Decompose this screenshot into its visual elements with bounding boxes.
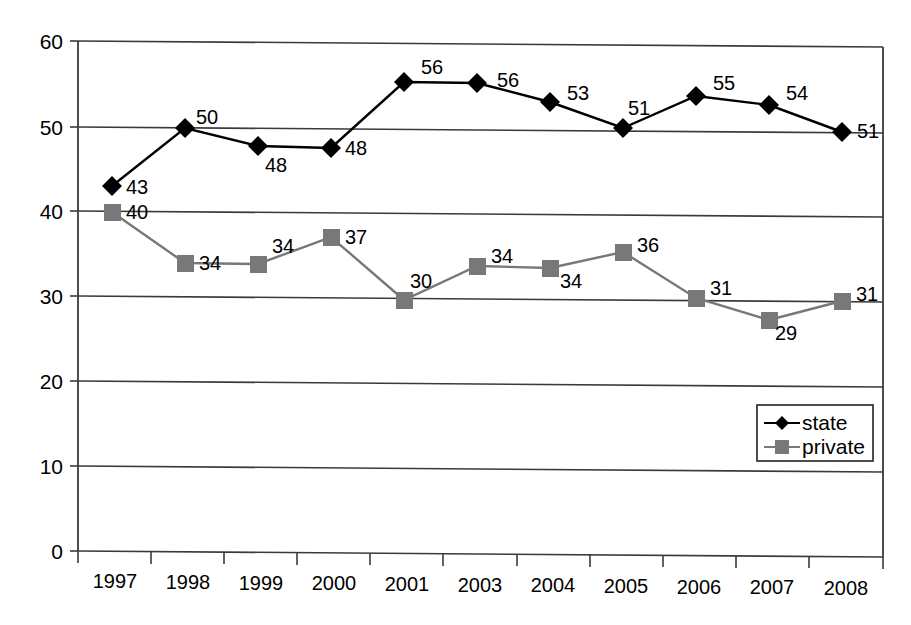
data-label: 56 [497, 69, 519, 91]
gridline-10 [78, 466, 883, 472]
series-private-marker [542, 260, 559, 277]
data-label: 31 [856, 283, 878, 305]
x-tick-label-2008: 2008 [824, 577, 869, 599]
x-tick-label-2003: 2003 [458, 574, 503, 596]
data-label: 48 [265, 154, 287, 176]
series-state-marker [686, 86, 706, 106]
x-tick-label-1999: 1999 [239, 572, 284, 594]
gridline-40 [78, 211, 883, 217]
series-state-marker [467, 73, 487, 93]
data-label: 31 [710, 277, 732, 299]
data-label: 37 [345, 226, 367, 248]
legend-label-private: private [802, 435, 865, 458]
x-tick-label-2000: 2000 [312, 572, 357, 594]
x-tick-label-2005: 2005 [604, 575, 649, 597]
series-private-marker [396, 292, 413, 309]
data-label: 34 [199, 252, 221, 274]
chart-canvas: 60 50 40 30 20 10 0 1997 1998 [0, 0, 911, 625]
y-tick-label-50: 50 [40, 116, 63, 139]
data-label: 50 [196, 106, 218, 128]
data-label: 34 [272, 235, 294, 257]
series-private-marker [615, 244, 632, 261]
data-label: 54 [786, 82, 808, 104]
chart-legend[interactable]: state private [757, 405, 873, 461]
series-private-marker [834, 293, 851, 310]
y-tick-label-60: 60 [40, 30, 63, 53]
data-label: 30 [410, 270, 432, 292]
data-label: 36 [637, 234, 659, 256]
y-tick-label-40: 40 [40, 200, 63, 223]
gridline-60 [78, 41, 883, 47]
data-label: 56 [421, 56, 443, 78]
y-tick-label-30: 30 [40, 285, 63, 308]
data-label: 43 [126, 176, 148, 198]
line-chart: 60 50 40 30 20 10 0 1997 1998 [0, 0, 911, 625]
legend-label-state: state [802, 411, 848, 434]
series-private-marker [688, 290, 705, 307]
gridline-30 [78, 296, 883, 302]
data-label: 34 [560, 270, 582, 292]
y-axis-ticks [70, 41, 78, 551]
series-state-labels: 43 50 48 48 56 56 53 51 55 54 51 [126, 56, 879, 198]
data-label: 51 [857, 120, 879, 142]
gridline-0-baseline [78, 551, 883, 557]
x-tick-label-2004: 2004 [531, 574, 576, 596]
y-tick-label-10: 10 [40, 455, 63, 478]
gridline-20 [78, 381, 883, 387]
series-state-marker [613, 118, 633, 138]
x-tick-label-2006: 2006 [677, 576, 722, 598]
y-tick-label-0: 0 [51, 540, 63, 563]
y-tick-label-20: 20 [40, 370, 63, 393]
series-state-marker [540, 92, 560, 112]
series-state-marker [248, 136, 268, 156]
series-state-marker [759, 95, 779, 115]
square-icon [775, 440, 789, 454]
series-state-marker [832, 122, 852, 142]
x-axis-tick-labels: 1997 1998 1999 2000 2001 2003 2004 2005 … [93, 570, 869, 599]
data-label: 34 [491, 245, 513, 267]
x-tick-label-1997: 1997 [93, 570, 138, 592]
x-tick-label-1998: 1998 [166, 571, 211, 593]
data-label: 40 [126, 201, 148, 223]
data-label: 55 [713, 72, 735, 94]
series-private-marker [323, 229, 340, 246]
x-tick-label-2001: 2001 [385, 573, 430, 595]
data-label: 53 [567, 82, 589, 104]
series-state-line [112, 82, 842, 186]
y-axis-tick-labels: 60 50 40 30 20 10 0 [40, 30, 63, 563]
series-state [102, 72, 852, 196]
x-tick-label-2007: 2007 [750, 576, 795, 598]
series-private-marker [250, 256, 267, 273]
series-private-marker [469, 258, 486, 275]
series-private-marker [104, 204, 121, 221]
data-label: 51 [628, 97, 650, 119]
series-private-marker [177, 255, 194, 272]
data-label: 29 [775, 322, 797, 344]
data-label: 48 [345, 137, 367, 159]
